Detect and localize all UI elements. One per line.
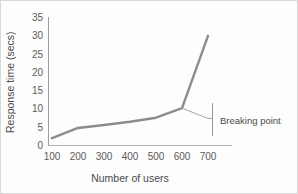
y-tick-label-10: 10 <box>32 103 44 114</box>
y-tick-label-35: 35 <box>32 12 44 23</box>
breaking-point-label: Breaking point <box>220 115 281 126</box>
y-axis-title: Response time (secs) <box>4 31 16 133</box>
y-tick-label-25: 25 <box>32 49 44 60</box>
x-tick-label-500: 500 <box>148 151 165 162</box>
y-tick-label-0: 0 <box>37 140 43 151</box>
x-tick-label-400: 400 <box>122 151 139 162</box>
response-time-series-line <box>52 36 208 138</box>
x-tick-label-700: 700 <box>200 151 217 162</box>
breaking-point-leader-line <box>182 108 213 118</box>
x-tick-label-100: 100 <box>44 151 61 162</box>
chart-container: Response time (secs) 35 30 25 20 15 10 5… <box>0 0 298 194</box>
x-tick-label-300: 300 <box>96 151 113 162</box>
y-tick-label-30: 30 <box>32 30 44 41</box>
x-tick-label-200: 200 <box>70 151 87 162</box>
y-tick-label-20: 20 <box>32 67 44 78</box>
response-time-line-chart: Response time (secs) 35 30 25 20 15 10 5… <box>0 0 298 194</box>
y-tick-label-5: 5 <box>37 122 43 133</box>
x-tick-label-600: 600 <box>174 151 191 162</box>
y-tick-label-15: 15 <box>32 85 44 96</box>
x-axis-title: Number of users <box>91 172 169 184</box>
